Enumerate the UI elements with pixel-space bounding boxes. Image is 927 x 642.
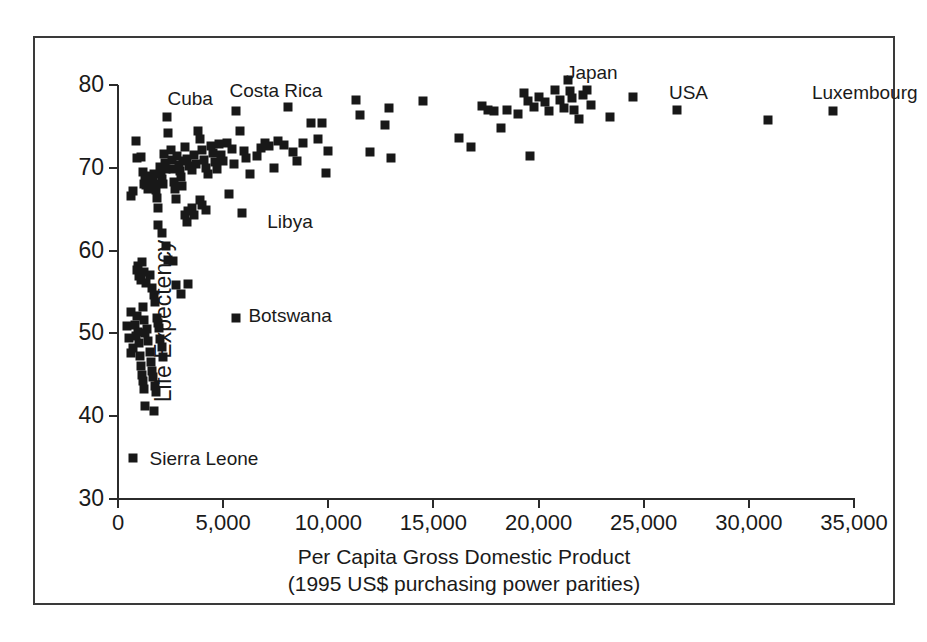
y-tick-50: 50 bbox=[109, 332, 118, 334]
x-tick-0 bbox=[117, 499, 119, 508]
y-tick-80: 80 bbox=[109, 84, 118, 86]
figure-frame: Life Expectency 304050607080 05,00010,00… bbox=[33, 36, 895, 605]
data-point bbox=[324, 147, 333, 156]
x-tick-label-20000: 20,000 bbox=[505, 512, 572, 534]
data-point bbox=[284, 103, 293, 112]
data-point bbox=[164, 129, 173, 138]
data-point bbox=[184, 279, 193, 288]
data-point bbox=[246, 170, 255, 179]
y-tick-70: 70 bbox=[109, 167, 118, 169]
data-point bbox=[171, 280, 180, 289]
x-tick-5000 bbox=[222, 499, 224, 508]
data-point bbox=[355, 110, 364, 119]
x-tick-label-25000: 25,000 bbox=[610, 512, 677, 534]
data-point bbox=[153, 203, 162, 212]
data-point bbox=[587, 100, 596, 109]
x-tick-10000 bbox=[327, 499, 329, 508]
data-point bbox=[155, 324, 164, 333]
y-tick-label-70: 70 bbox=[78, 155, 104, 178]
data-point bbox=[418, 96, 427, 105]
data-point bbox=[307, 119, 316, 128]
data-point bbox=[128, 453, 137, 462]
data-point bbox=[496, 124, 505, 133]
data-point bbox=[763, 115, 772, 124]
x-tick-30000 bbox=[748, 499, 750, 508]
data-point bbox=[381, 120, 390, 129]
data-point bbox=[385, 104, 394, 113]
data-point bbox=[146, 358, 155, 367]
annotation-japan: Japan bbox=[566, 63, 618, 82]
data-point bbox=[145, 347, 154, 356]
data-point bbox=[269, 163, 278, 172]
data-point bbox=[606, 113, 615, 122]
data-point bbox=[317, 119, 326, 128]
data-point bbox=[137, 361, 146, 370]
y-tick-40: 40 bbox=[109, 415, 118, 417]
data-point bbox=[454, 133, 463, 142]
data-point bbox=[299, 138, 308, 147]
data-point bbox=[159, 353, 168, 362]
data-point bbox=[136, 351, 145, 360]
data-point bbox=[178, 182, 187, 191]
data-point bbox=[252, 152, 261, 161]
data-point bbox=[135, 338, 144, 347]
data-point bbox=[551, 85, 560, 94]
data-point bbox=[131, 137, 140, 146]
data-point bbox=[570, 105, 579, 114]
data-point bbox=[235, 127, 244, 136]
annotation-sierra-leone: Sierra Leone bbox=[150, 449, 259, 468]
data-point bbox=[231, 313, 240, 322]
data-point bbox=[126, 349, 135, 358]
data-point bbox=[526, 152, 535, 161]
y-tick-label-40: 40 bbox=[78, 404, 104, 427]
data-point bbox=[288, 148, 297, 157]
data-point bbox=[152, 193, 161, 202]
data-point bbox=[673, 105, 682, 114]
data-point bbox=[171, 195, 180, 204]
data-point bbox=[582, 85, 591, 94]
annotation-luxembourg: Luxembourg bbox=[812, 83, 918, 102]
x-axis-line bbox=[117, 498, 855, 500]
y-tick-label-30: 30 bbox=[78, 487, 104, 510]
annotation-libya: Libya bbox=[267, 212, 312, 231]
data-point bbox=[229, 159, 238, 168]
y-tick-label-60: 60 bbox=[78, 238, 104, 261]
data-point bbox=[629, 92, 638, 101]
data-point bbox=[177, 289, 186, 298]
data-point bbox=[313, 134, 322, 143]
data-point bbox=[150, 297, 159, 306]
data-point bbox=[148, 373, 157, 382]
data-point bbox=[149, 407, 158, 416]
data-point bbox=[387, 153, 396, 162]
data-point bbox=[545, 107, 554, 116]
data-point bbox=[151, 388, 160, 397]
data-point bbox=[574, 114, 583, 123]
x-tick-35000 bbox=[853, 499, 855, 508]
data-point bbox=[513, 109, 522, 118]
y-tick-label-80: 80 bbox=[78, 73, 104, 96]
x-tick-25000 bbox=[643, 499, 645, 508]
x-tick-label-5000: 5,000 bbox=[196, 512, 251, 534]
x-tick-15000 bbox=[432, 499, 434, 508]
data-point bbox=[128, 186, 137, 195]
data-point bbox=[503, 105, 512, 114]
data-point bbox=[159, 180, 168, 189]
data-point bbox=[189, 210, 198, 219]
data-point bbox=[225, 190, 234, 199]
data-point bbox=[202, 206, 211, 215]
annotation-cuba: Cuba bbox=[167, 89, 212, 108]
data-point bbox=[292, 157, 301, 166]
plot-area: 304050607080 05,00010,00015,00020,00025,… bbox=[118, 85, 854, 499]
data-point bbox=[231, 107, 240, 116]
data-point bbox=[158, 229, 167, 238]
x-tick-label-30000: 30,000 bbox=[715, 512, 782, 534]
x-tick-20000 bbox=[538, 499, 540, 508]
data-point bbox=[467, 143, 476, 152]
data-point bbox=[140, 384, 149, 393]
data-point bbox=[158, 342, 167, 351]
data-point bbox=[141, 329, 150, 338]
data-point bbox=[163, 113, 172, 122]
data-point bbox=[227, 144, 236, 153]
data-point bbox=[568, 94, 577, 103]
data-point bbox=[153, 220, 162, 229]
